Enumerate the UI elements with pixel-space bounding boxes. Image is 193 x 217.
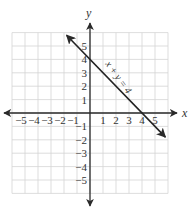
x-tick-label: 2 [113, 114, 119, 126]
y-tick-label: −1 [75, 120, 87, 132]
x-tick-label: −5 [15, 114, 27, 126]
y-tick-label: 3 [82, 67, 88, 79]
y-tick-label: −3 [75, 147, 87, 159]
y-tick-label: 2 [82, 80, 88, 92]
y-tick-label: −2 [75, 134, 87, 146]
x-tick-label: 1 [100, 114, 106, 126]
y-axis-label: y [85, 6, 92, 20]
y-tick-label: −5 [75, 174, 87, 186]
coordinate-graph: −5−4−3−2−112345 −5−4−3−2−112345 x y x + … [0, 0, 193, 217]
y-tick-label: 1 [82, 94, 88, 106]
x-tick-label: 3 [126, 114, 132, 126]
x-tick-label: −2 [54, 114, 66, 126]
x-tick-label: −4 [28, 114, 40, 126]
y-tick-label: −4 [75, 161, 87, 173]
x-axis-label: x [181, 106, 188, 120]
x-tick-label: −3 [41, 114, 53, 126]
y-tick-label: 5 [82, 40, 88, 52]
